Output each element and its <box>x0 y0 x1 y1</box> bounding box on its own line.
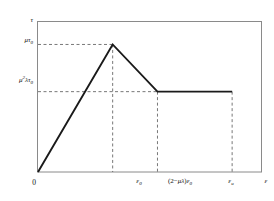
chart-svg: μτ0 μ2λτ0 τ 0 ε0 (2−μλ)ε0 εu ε <box>0 0 274 201</box>
y-axis-symbol: τ <box>30 16 33 24</box>
y-tick-label-residual-stress: μ2λτ0 <box>19 75 34 84</box>
stress-strain-curve <box>38 44 232 172</box>
x-axis-symbol: ε <box>265 177 268 185</box>
origin-label: 0 <box>32 178 36 187</box>
x-tick-label-eps-0: ε0 <box>136 177 142 186</box>
stress-strain-figure: μτ0 μ2λτ0 τ 0 ε0 (2−μλ)ε0 εu ε <box>0 0 274 201</box>
x-tick-label-eps-u: εu <box>228 177 234 186</box>
x-tick-label-eps-soften-end: (2−μλ)ε0 <box>168 177 192 186</box>
y-tick-label-peak-stress: μτ0 <box>24 36 33 45</box>
